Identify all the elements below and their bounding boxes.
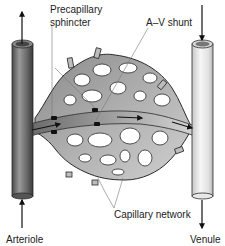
arteriole: [12, 40, 33, 199]
sphincter-1: [51, 116, 57, 120]
sphincter-2: [51, 130, 57, 134]
label-precapillary: Precapillary: [50, 4, 102, 15]
microcirculation-diagram: Precapillary sphincter A–V shunt Capilla…: [0, 0, 225, 246]
label-sphincter: sphincter: [50, 17, 91, 28]
label-capillary-network: Capillary network: [114, 209, 192, 220]
venule: [192, 40, 213, 199]
label-av-shunt: A–V shunt: [146, 17, 192, 28]
sphincter-3: [92, 108, 98, 112]
label-venule: Venule: [190, 234, 221, 245]
sphincter-4: [94, 122, 100, 126]
label-arteriole: Arteriole: [6, 234, 44, 245]
